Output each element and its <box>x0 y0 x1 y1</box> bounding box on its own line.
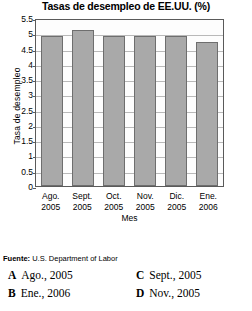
bar <box>41 36 63 186</box>
y-tick-label: 2 <box>28 122 33 130</box>
bar <box>134 36 156 186</box>
answer-letter-a: A <box>8 269 16 281</box>
source-note: Fuente: U.S. Department of Labor <box>3 254 118 263</box>
answer-option-b[interactable]: BEne., 2006 <box>8 286 70 300</box>
answer-option-c[interactable]: CSept., 2005 <box>136 268 201 282</box>
x-tick-year: 2006 <box>193 202 223 213</box>
x-tick-month: Dic. <box>162 191 192 202</box>
answer-options: AAgo., 2005 BEne., 2006 CSept., 2005 DNo… <box>0 264 252 311</box>
y-tick-label: 5 <box>28 30 33 38</box>
y-tick-mark <box>33 188 36 189</box>
bar <box>72 30 94 186</box>
x-tick-year: 2005 <box>162 202 192 213</box>
x-tick-label: Ene.2006 <box>193 191 223 212</box>
x-axis-label: Mes <box>35 213 224 223</box>
y-tick-label: 4 <box>28 61 33 69</box>
y-tick-label: 4.5 <box>21 46 33 54</box>
y-tick-label: 3.5 <box>21 76 33 84</box>
x-tick-month: Ago. <box>36 191 66 202</box>
y-tick-label: 0 <box>28 183 33 191</box>
source-text: U.S. Department of Labor <box>32 254 117 263</box>
y-tick-mark <box>33 81 36 82</box>
x-tick-year: 2005 <box>67 202 97 213</box>
answer-text-b: Ene., 2006 <box>21 287 71 299</box>
answer-option-a[interactable]: AAgo., 2005 <box>8 268 73 282</box>
x-tick-year: 2005 <box>130 202 160 213</box>
x-tick-month: Oct. <box>99 191 129 202</box>
x-tick-month: Nov. <box>130 191 160 202</box>
answer-letter-d: D <box>136 287 144 299</box>
y-tick-mark <box>33 127 36 128</box>
y-tick-label: 0.5 <box>21 168 33 176</box>
answer-letter-c: C <box>136 269 144 281</box>
y-tick-mark <box>33 112 36 113</box>
answer-text-d: Nov., 2005 <box>149 287 200 299</box>
x-tick-month: Sept. <box>67 191 97 202</box>
x-tick-month: Ene. <box>193 191 223 202</box>
x-tick-year: 2005 <box>99 202 129 213</box>
y-tick-label: 2.5 <box>21 107 33 115</box>
plot-area <box>35 19 224 187</box>
x-axis-tick-labels: Ago.2005Sept.2005Oct.2005Nov.2005Dic.200… <box>35 191 224 212</box>
y-tick-mark <box>33 51 36 52</box>
y-tick-mark <box>33 35 36 36</box>
x-tick-label: Ago.2005 <box>36 191 66 212</box>
y-tick-label: 1.5 <box>21 137 33 145</box>
source-label: Fuente: <box>3 254 30 263</box>
y-tick-mark <box>33 157 36 158</box>
x-tick-label: Oct.2005 <box>99 191 129 212</box>
y-tick-mark <box>33 20 36 21</box>
chart-title: Tasas de desempleo de EE.UU. (%) <box>0 0 252 13</box>
answer-text-a: Ago., 2005 <box>21 269 72 281</box>
bar <box>196 42 218 186</box>
answer-text-c: Sept., 2005 <box>149 269 201 281</box>
y-axis-tick-labels: 5.554.543.532.521.510.50 <box>8 19 33 187</box>
x-tick-label: Nov.2005 <box>130 191 160 212</box>
y-tick-mark <box>33 142 36 143</box>
chart-figure: Tasa de desempleo 5.554.543.532.521.510.… <box>0 13 252 245</box>
x-tick-label: Sept.2005 <box>67 191 97 212</box>
y-tick-label: 5.5 <box>21 15 33 23</box>
y-tick-label: 3 <box>28 91 33 99</box>
bar <box>165 36 187 186</box>
bar-series <box>36 20 223 186</box>
answer-option-d[interactable]: DNov., 2005 <box>136 286 200 300</box>
x-tick-label: Dic.2005 <box>162 191 192 212</box>
y-tick-label: 1 <box>28 152 33 160</box>
bar <box>103 36 125 186</box>
y-tick-mark <box>33 96 36 97</box>
answer-letter-b: B <box>8 287 16 299</box>
y-tick-mark <box>33 66 36 67</box>
y-tick-mark <box>33 173 36 174</box>
x-tick-year: 2005 <box>36 202 66 213</box>
